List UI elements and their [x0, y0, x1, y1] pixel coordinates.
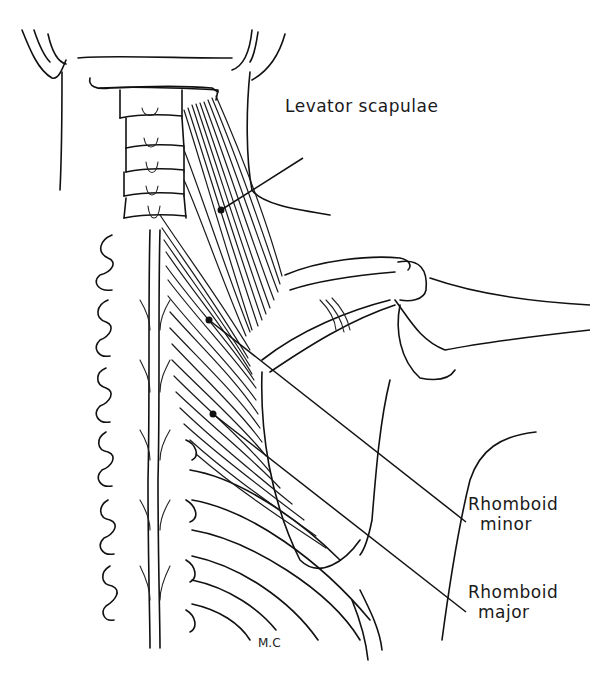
thoracic-spine [96, 230, 196, 648]
label-text: Levator scapulae [285, 96, 438, 116]
cervical-spine [78, 57, 232, 218]
levator-scapulae-muscle [184, 96, 282, 336]
label-rhomboid-major: Rhomboid major [468, 582, 558, 622]
label-text-line2: minor [468, 514, 558, 534]
label-levator-scapulae: Levator scapulae [285, 96, 438, 116]
label-text-line1: Rhomboid [468, 582, 558, 602]
artist-signature: M.C [258, 636, 281, 650]
label-rhomboid-minor: Rhomboid minor [468, 494, 558, 534]
label-text-line2: major [468, 602, 558, 622]
label-text-line1: Rhomboid [468, 494, 558, 514]
